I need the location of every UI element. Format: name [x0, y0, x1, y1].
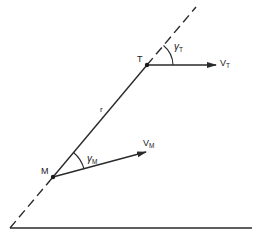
- gamma-t-angle-arc: [164, 46, 174, 66]
- label-r: r: [100, 105, 103, 114]
- label-gamma-M: γM: [87, 153, 97, 165]
- target-point-T: [145, 63, 149, 67]
- label-V-T: VT: [220, 58, 230, 69]
- gamma-m-angle-arc: [74, 153, 85, 170]
- label-T: T: [137, 54, 143, 64]
- line-of-sight-extension-lower: [10, 177, 53, 228]
- label-V-M: VM: [143, 138, 154, 149]
- line-of-sight-r: [53, 65, 147, 177]
- label-gamma-T: γT: [174, 41, 183, 53]
- missile-point-M: [51, 175, 55, 179]
- missile-velocity-vector: [53, 152, 146, 177]
- label-M: M: [41, 166, 49, 176]
- missile-target-geometry-diagram: T M r VT VM γT γM: [0, 0, 258, 238]
